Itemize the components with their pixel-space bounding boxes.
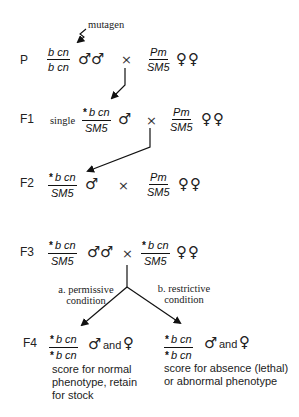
male-symbol-icon: ♂ <box>118 112 131 127</box>
cross-symbol: × <box>121 52 132 67</box>
f2-female-genotype: Pm SM5 <box>147 171 170 198</box>
cutoff-caption <box>0 408 299 417</box>
male-symbol-icon: ♂ <box>100 245 113 260</box>
female-symbol-icon: ♀ <box>188 245 199 260</box>
male-symbol-icon: ♂ <box>78 52 91 67</box>
generation-label-p: P <box>20 53 28 67</box>
f1-to-f2-arrow <box>88 128 150 171</box>
f4-restrictive-genotype: *b cn *b cn <box>164 333 193 362</box>
f4-permissive-genotype: *b cn *b cn <box>49 333 78 362</box>
generation-label-f3: F3 <box>20 245 34 259</box>
permissive-outcome-description: score for normal phenotype, retain for s… <box>52 363 137 402</box>
cross-symbol: × <box>122 246 133 261</box>
and-label: and <box>219 338 237 350</box>
mutagen-arrow-icon <box>78 29 86 42</box>
male-symbol-icon: ♂ <box>87 245 100 260</box>
female-symbol-icon: ♀ <box>178 177 189 192</box>
male-symbol-icon: ♂ <box>204 336 217 351</box>
and-label: and <box>103 339 121 351</box>
cross-symbol: × <box>118 178 129 193</box>
p-to-f1-arrow <box>112 68 125 98</box>
restrictive-outcome-description: score for absence (lethal) or abnormal p… <box>164 362 288 388</box>
generation-label-f4: F4 <box>23 336 37 350</box>
f3-female-genotype: *b cn SM5 <box>141 239 170 267</box>
permissive-condition-label: a. permissive condition <box>56 284 116 306</box>
generation-label-f1: F1 <box>20 112 34 126</box>
f3-male-genotype: *b cn SM5 <box>48 239 77 267</box>
f1-female-genotype: Pm SM5 <box>170 106 193 133</box>
f1-male-genotype: *b cn SM5 <box>82 106 111 134</box>
male-symbol-icon: ♂ <box>88 337 101 352</box>
female-symbol-icon: ♀ <box>201 112 212 127</box>
female-symbol-icon: ♀ <box>190 177 201 192</box>
female-symbol-icon: ♀ <box>239 335 250 350</box>
female-symbol-icon: ♀ <box>213 112 224 127</box>
female-symbol-icon: ♀ <box>176 245 187 260</box>
single-label: single <box>50 115 75 126</box>
p-male-genotype: b cn b cn <box>47 46 70 73</box>
mutagen-label: mutagen <box>88 19 124 30</box>
f2-male-genotype: *b cn SM5 <box>48 171 77 199</box>
cross-symbol: × <box>146 113 157 128</box>
p-female-genotype: Pm SM5 <box>147 46 170 73</box>
female-symbol-icon: ♀ <box>188 52 199 67</box>
female-symbol-icon: ♀ <box>176 52 187 67</box>
male-symbol-icon: ♂ <box>91 52 104 67</box>
female-symbol-icon: ♀ <box>123 336 134 351</box>
generation-label-f2: F2 <box>20 176 34 190</box>
male-symbol-icon: ♂ <box>85 177 98 192</box>
restrictive-condition-label: b. restrictive condition <box>154 283 214 305</box>
